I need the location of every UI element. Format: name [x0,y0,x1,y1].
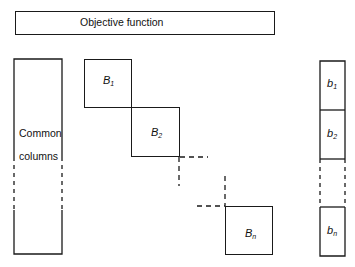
rhs-bottom-outline [320,207,345,256]
common-columns-top-outline [14,59,62,157]
common-columns-bottom-outline [14,210,62,254]
diagram-lines [0,0,355,267]
